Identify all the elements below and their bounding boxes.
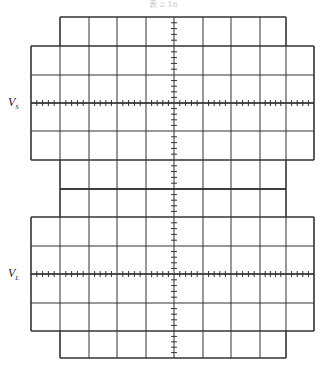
vl-label: VL bbox=[8, 266, 19, 282]
oscilloscope-graticule bbox=[0, 0, 327, 371]
vs-label: VS bbox=[8, 95, 19, 111]
